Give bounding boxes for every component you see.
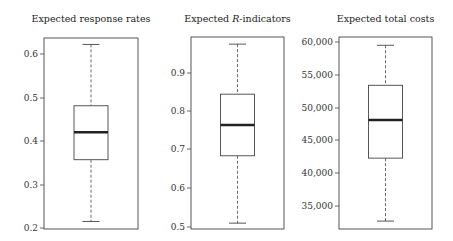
y-tick-label: 50,000 bbox=[302, 103, 334, 113]
y-tick-label: 0.6 bbox=[24, 49, 39, 59]
y-tick-label: 55,000 bbox=[302, 70, 334, 80]
iqr-box bbox=[369, 85, 403, 158]
y-tick-label: 45,000 bbox=[302, 135, 334, 145]
y-tick-label: 0.7 bbox=[171, 144, 186, 154]
box bbox=[74, 44, 108, 221]
y-axis: 35,00040,00045,00050,00055,00060,000 bbox=[302, 37, 340, 211]
y-tick-label: 0.5 bbox=[24, 93, 39, 103]
y-tick-label: 0.9 bbox=[171, 68, 186, 78]
box bbox=[221, 44, 255, 223]
panel-title: Expected response rates bbox=[32, 13, 151, 24]
boxplot-figure: Expected response rates0.20.30.40.50.6Ex… bbox=[0, 0, 453, 241]
panel-title: Expected R-indicators bbox=[184, 13, 291, 24]
box bbox=[369, 45, 403, 221]
boxplot-panel-3: Expected total costs35,00040,00045,00050… bbox=[302, 13, 435, 229]
boxplot-panel-2: Expected R-indicators0.50.60.70.80.9 bbox=[171, 13, 291, 232]
y-tick-label: 0.5 bbox=[171, 222, 186, 232]
y-axis: 0.20.30.40.50.6 bbox=[24, 49, 44, 233]
y-tick-label: 0.8 bbox=[171, 106, 186, 116]
y-tick-label: 0.6 bbox=[171, 183, 186, 193]
y-tick-label: 0.3 bbox=[24, 180, 39, 190]
y-tick-label: 0.4 bbox=[24, 136, 39, 146]
y-tick-label: 35,000 bbox=[302, 201, 334, 211]
y-axis: 0.50.60.70.80.9 bbox=[171, 68, 191, 232]
y-tick-label: 0.2 bbox=[24, 223, 38, 233]
y-tick-label: 40,000 bbox=[302, 168, 334, 178]
y-tick-label: 60,000 bbox=[302, 37, 334, 47]
boxplot-panel-1: Expected response rates0.20.30.40.50.6 bbox=[24, 13, 151, 233]
panel-title: Expected total costs bbox=[337, 13, 435, 24]
